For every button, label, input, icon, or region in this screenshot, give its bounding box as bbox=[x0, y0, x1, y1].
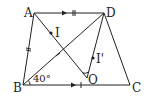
angle-label-B: 40° bbox=[33, 74, 51, 84]
label-C: C bbox=[132, 82, 141, 94]
arrow-AD bbox=[62, 11, 67, 16]
tick-AB-2 bbox=[26, 50, 31, 51]
segment-DO bbox=[87, 13, 104, 78]
tick-AB bbox=[26, 48, 31, 49]
angle-arc-B bbox=[29, 81, 31, 86]
segment-DC bbox=[104, 13, 130, 85]
point-I-prime bbox=[91, 56, 94, 59]
label-I-prime: I' bbox=[96, 53, 104, 65]
label-D: D bbox=[106, 7, 116, 19]
arrow-BC bbox=[71, 83, 76, 88]
label-B: B bbox=[13, 82, 22, 94]
label-A: A bbox=[24, 7, 33, 19]
label-O: O bbox=[88, 74, 98, 86]
label-I: I bbox=[55, 27, 60, 39]
geometry-diagram: A D B C O I I' 40° bbox=[0, 0, 151, 107]
point-I bbox=[49, 31, 52, 34]
diagram-canvas bbox=[0, 0, 151, 107]
